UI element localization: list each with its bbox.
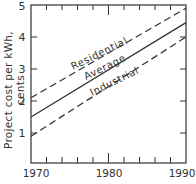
y-tick-label-1: 1	[19, 127, 26, 140]
x-axis-ticks-top	[47, 5, 171, 15]
y-axis-ticks-right	[180, 37, 186, 133]
y-axis-label: Project cost per kWh, cents	[2, 20, 14, 160]
y-axis-ticks-left	[31, 37, 37, 133]
y-tick-label-4: 4	[19, 31, 26, 44]
x-tick-label-1970: 1970	[23, 167, 50, 179]
x-axis-ticks-bottom	[47, 153, 171, 163]
x-tick-label-1990: 1990	[169, 167, 196, 179]
cost-chart: 5 4 3 2 1 1970 1980 1990 Residential Ave…	[0, 0, 196, 184]
x-tick-label-1980: 1980	[96, 167, 123, 179]
y-tick-label-5: 5	[19, 0, 26, 13]
